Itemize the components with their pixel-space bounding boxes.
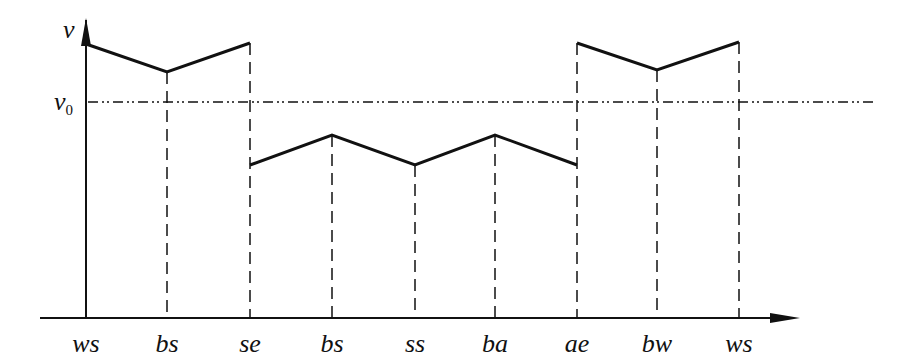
time-markers (167, 42, 739, 318)
v0-label: v0 (54, 87, 73, 118)
velocity-segment (250, 135, 577, 165)
y-axis-label: v (63, 15, 75, 44)
x-axis-label: ss (405, 329, 425, 358)
velocity-curve (86, 42, 739, 165)
x-axis-label: bw (642, 329, 673, 358)
x-axis-label: se (239, 329, 261, 358)
v0-subscript: 0 (66, 102, 74, 118)
velocity-segment (577, 42, 739, 70)
x-axis-labels: wsbssebsssbaaebwws (72, 329, 752, 358)
x-axis-label: ws (72, 329, 99, 358)
x-axis-label: bs (155, 329, 178, 358)
velocity-segment (86, 43, 250, 72)
x-axis-arrow-icon (770, 313, 800, 323)
x-axis-label: ba (482, 329, 508, 358)
y-axis-arrow-icon (81, 18, 91, 46)
x-axis-label: ws (725, 329, 752, 358)
x-axis-label: bs (320, 329, 343, 358)
x-axis-label: ae (565, 329, 590, 358)
diagram-canvas: wsbssebsssbaaebwws v v0 (0, 0, 910, 361)
velocity-diagram: wsbssebsssbaaebwws v v0 (0, 0, 910, 361)
